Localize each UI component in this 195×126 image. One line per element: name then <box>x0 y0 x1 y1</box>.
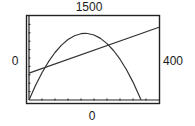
graph-frame <box>27 16 160 104</box>
line-curve <box>29 27 159 73</box>
graph-window <box>0 0 195 126</box>
axes <box>29 16 160 101</box>
plotted-curves <box>29 27 159 100</box>
